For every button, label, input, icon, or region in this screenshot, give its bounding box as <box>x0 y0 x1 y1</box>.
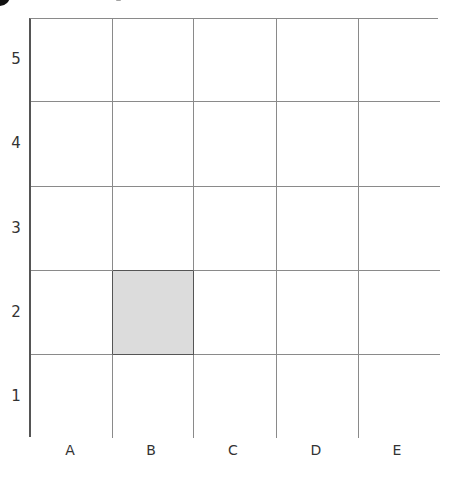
y-label-2: 2 <box>9 304 23 320</box>
cell-E5 <box>359 19 440 102</box>
cell-D1 <box>277 355 359 438</box>
cell-C3 <box>194 187 277 271</box>
cell-C5 <box>194 19 277 102</box>
cell-B1 <box>113 355 194 438</box>
cell-D2 <box>277 271 359 355</box>
x-label-E: E <box>387 442 407 458</box>
cell-C2 <box>194 271 277 355</box>
x-label-D: D <box>306 442 326 458</box>
cell-B4 <box>113 102 194 187</box>
coordinate-grid <box>29 18 438 437</box>
cell-E1 <box>359 355 440 438</box>
cell-D5 <box>277 19 359 102</box>
x-label-B: B <box>141 442 161 458</box>
cell-C4 <box>194 102 277 187</box>
cell-E3 <box>359 187 440 271</box>
cell-A3 <box>31 187 113 271</box>
cell-E4 <box>359 102 440 187</box>
y-label-1: 1 <box>9 388 23 404</box>
cell-E2 <box>359 271 440 355</box>
x-label-C: C <box>223 442 243 458</box>
y-label-4: 4 <box>9 135 23 151</box>
cropped-glyph <box>116 0 121 1</box>
cell-D3 <box>277 187 359 271</box>
cell-B5 <box>113 19 194 102</box>
cell-A1 <box>31 355 113 438</box>
cell-B3 <box>113 187 194 271</box>
cell-A5 <box>31 19 113 102</box>
y-label-5: 5 <box>9 51 23 67</box>
cell-D4 <box>277 102 359 187</box>
y-label-3: 3 <box>9 220 23 236</box>
cell-A4 <box>31 102 113 187</box>
x-label-A: A <box>60 442 80 458</box>
cell-A2 <box>31 271 113 355</box>
cropped-marker-icon <box>0 0 10 6</box>
cell-C1 <box>194 355 277 438</box>
cell-B2-shaded <box>113 271 194 355</box>
